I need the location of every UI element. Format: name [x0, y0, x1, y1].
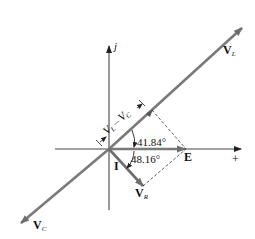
label-e: E: [184, 150, 192, 164]
phasor-diagram: VL–VC j + VL VC VR E I 41.84° 48.16°: [0, 0, 255, 239]
angle-lower-value: 48.16°: [131, 153, 160, 165]
label-vr: VR: [135, 186, 149, 201]
phasor-vc: [21, 149, 109, 223]
imaginary-axis-label: j: [112, 40, 117, 52]
angle-arc-upper: [132, 130, 135, 147]
real-axis-label: +: [232, 152, 239, 166]
angle-upper-value: 41.84°: [137, 136, 166, 148]
svg-text:VL–VC: VL–VC: [100, 106, 133, 138]
label-vl: VL: [223, 43, 236, 58]
label-i: I: [114, 159, 119, 173]
label-vc: VC: [33, 218, 47, 233]
